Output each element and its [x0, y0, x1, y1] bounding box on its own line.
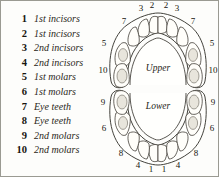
lower-position-9-left: 9	[101, 97, 106, 107]
upper-position-3-left: 3	[139, 3, 144, 13]
lower-position-1-right: 1	[162, 164, 167, 174]
lower-tooth-incisor-left	[149, 145, 158, 162]
legend-label: 2nd molars	[34, 130, 79, 141]
legend-number: 2	[11, 28, 27, 39]
lower-left-second-molar-pit	[117, 95, 127, 109]
lower-position-4-right: 4	[176, 160, 181, 170]
upper-position-2-left: 2	[150, 1, 155, 10]
lower-right-second-molar-pit	[189, 95, 199, 109]
upper-tooth-incisor-right	[158, 16, 167, 33]
lower-position-8-left: 8	[119, 148, 124, 158]
legend-number: 10	[11, 144, 27, 155]
legend-number: 8	[11, 115, 27, 126]
legend-label: 1st molars	[34, 86, 76, 97]
lower-tooth-incisor-right	[158, 145, 167, 162]
upper-left-first-molar-pit	[118, 49, 127, 62]
upper-jaw-group: Upper 3 2 2 3 7 7 5 5 10 10	[99, 1, 219, 88]
upper-position-10-left: 10	[99, 65, 109, 75]
upper-tooth-incisor-left	[149, 16, 158, 33]
lower-position-1-left: 1	[149, 164, 154, 174]
list-item: 10 2nd molars	[11, 144, 103, 159]
lower-left-first-molar-pit	[118, 117, 127, 130]
upper-right-second-molar-pit	[189, 69, 199, 83]
legend-label: 1st molars	[34, 71, 76, 82]
upper-position-3-right: 3	[175, 3, 180, 13]
legend-label: Eye teeth	[34, 101, 71, 112]
list-item: 3 2nd incisors	[11, 42, 103, 57]
legend-label: 2nd incisors	[34, 42, 83, 53]
dental-chart-figure: 1 1st incisors 2 1st incisors 3 2nd inci…	[0, 0, 219, 177]
legend-number: 1	[11, 13, 27, 24]
upper-position-7-left: 7	[122, 16, 127, 26]
legend-label: 1st incisors	[34, 28, 80, 39]
legend-label: 2nd molars	[34, 144, 79, 155]
upper-left-second-molar-pit	[117, 69, 127, 83]
list-item: 8 Eye teeth	[11, 115, 103, 130]
list-item: 7 Eye teeth	[11, 101, 103, 116]
legend-number: 7	[11, 101, 27, 112]
legend-label: 2nd incisors	[34, 57, 83, 68]
legend-number: 3	[11, 42, 27, 53]
lower-jaw-label: Lower	[145, 101, 171, 111]
lower-jaw-group: Lower 9 9 6 6 8 8 4 1 1 4	[101, 90, 216, 174]
list-item: 4 2nd incisors	[11, 57, 103, 72]
list-item: 2 1st incisors	[11, 28, 103, 43]
lower-position-6-right: 6	[210, 123, 215, 133]
list-item: 6 1st molars	[11, 86, 103, 101]
upper-position-7-right: 7	[191, 16, 196, 26]
upper-right-first-molar-pit	[188, 49, 197, 62]
lower-position-8-right: 8	[194, 148, 199, 158]
legend-number: 4	[11, 57, 27, 68]
legend-number: 9	[11, 130, 27, 141]
lower-right-first-molar-pit	[188, 117, 197, 130]
list-item: 9 2nd molars	[11, 130, 103, 145]
upper-position-2-right: 2	[164, 1, 169, 10]
upper-position-5-left: 5	[102, 38, 107, 48]
lower-position-9-right: 9	[211, 97, 216, 107]
list-item: 5 1st molars	[11, 71, 103, 86]
legend-label: 1st incisors	[34, 13, 80, 24]
dental-arch-diagram: Upper 3 2 2 3 7 7 5 5 10 10	[97, 1, 219, 177]
lower-position-6-left: 6	[102, 123, 107, 133]
legend-label: Eye teeth	[34, 115, 71, 126]
list-item: 1 1st incisors	[11, 13, 103, 28]
tooth-legend-list: 1 1st incisors 2 1st incisors 3 2nd inci…	[11, 13, 103, 159]
upper-position-5-right: 5	[210, 38, 215, 48]
upper-position-10-right: 10	[209, 65, 219, 75]
legend-number: 6	[11, 86, 27, 97]
upper-jaw-label: Upper	[146, 63, 171, 73]
legend-number: 5	[11, 71, 27, 82]
lower-position-4-left: 4	[136, 160, 141, 170]
